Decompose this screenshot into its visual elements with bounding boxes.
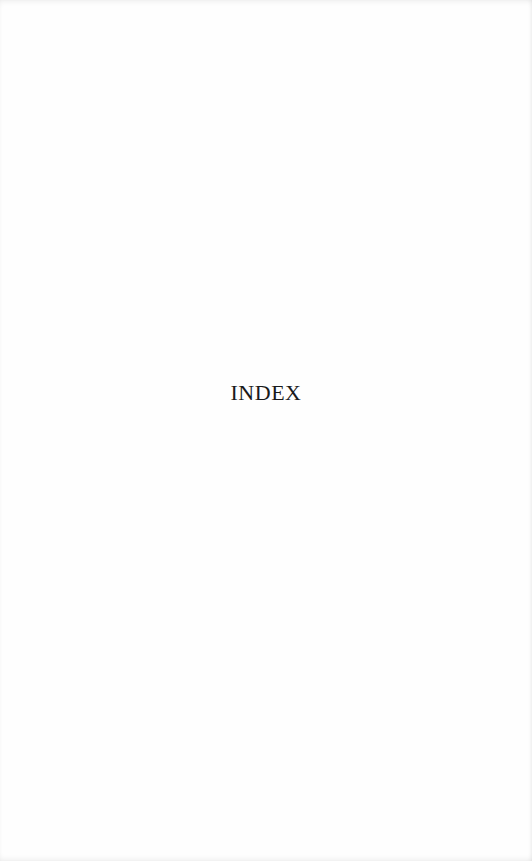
document-page: INDEX: [0, 0, 532, 861]
section-heading: INDEX: [0, 380, 532, 406]
